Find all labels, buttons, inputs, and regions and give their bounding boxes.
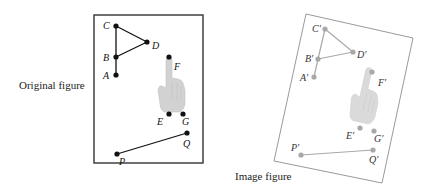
label-B: B (103, 52, 109, 63)
label-C: C (103, 20, 110, 31)
segment-P1Q1 (301, 150, 373, 155)
label-D: D (151, 40, 160, 51)
image-frame (274, 14, 413, 183)
point-D-prime (350, 49, 355, 54)
label-P-prime: P′ (290, 142, 300, 153)
pointing-hand-icon (158, 57, 185, 112)
label-Q-prime: Q′ (369, 154, 379, 165)
point-F-prime (369, 69, 374, 74)
segment-A1B1 (314, 59, 318, 77)
segment-D1B1 (318, 52, 353, 59)
label-A: A (102, 70, 110, 81)
label-P: P (118, 156, 125, 167)
point-E-prime (357, 125, 362, 130)
original-figure-caption: Original figure (19, 79, 85, 91)
point-C-prime (322, 26, 327, 31)
point-B-prime (315, 56, 320, 61)
point-F (166, 54, 171, 59)
point-Q-prime (370, 147, 375, 152)
label-A-prime: A′ (299, 72, 309, 83)
label-C-prime: C′ (312, 23, 322, 34)
rotation-diagram: Original figure A B C D E F G P Q Image … (0, 0, 431, 195)
label-G-prime: G′ (374, 133, 384, 144)
point-A-prime (311, 74, 316, 79)
point-A (113, 72, 118, 77)
label-F-prime: F′ (377, 77, 387, 88)
point-E (166, 111, 171, 116)
pointing-hand-image-icon (347, 65, 385, 125)
point-C (113, 23, 118, 28)
label-E: E (156, 116, 163, 127)
segment-CD (116, 26, 147, 42)
point-Q (184, 130, 189, 135)
label-B-prime: B′ (305, 53, 314, 64)
image-figure-caption: Image figure (235, 170, 292, 182)
segment-C1D1 (325, 29, 353, 52)
label-D-prime: D′ (356, 49, 367, 60)
segment-PQ (117, 133, 187, 154)
point-D (144, 39, 149, 44)
label-G: G (182, 116, 189, 127)
label-Q: Q (183, 138, 191, 149)
label-E-prime: E′ (345, 130, 355, 141)
point-B (113, 54, 118, 59)
label-F: F (173, 61, 181, 72)
segment-DB (116, 42, 147, 57)
point-P-prime (298, 152, 303, 157)
